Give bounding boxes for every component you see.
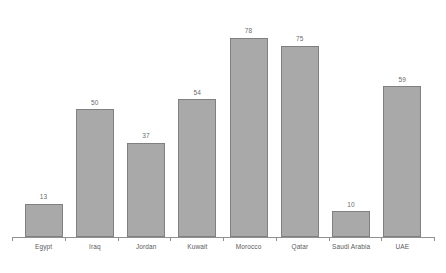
bar-group-saudi-arabia: 10 <box>326 8 377 237</box>
bar-saudi-arabia <box>332 211 370 237</box>
bar-value-label: 10 <box>347 202 355 209</box>
x-label-uae: UAE <box>377 243 428 250</box>
bar-value-label: 59 <box>399 77 407 84</box>
x-axis-tick <box>65 237 66 241</box>
bar-value-label: 37 <box>142 133 150 140</box>
x-axis-tick <box>223 237 224 241</box>
bar-qatar <box>281 46 319 237</box>
x-axis-tick <box>434 237 435 241</box>
x-label-kuwait: Kuwait <box>172 243 223 250</box>
x-axis-labels: Egypt Iraq Jordan Kuwait Morocco Qatar S… <box>18 243 428 250</box>
bar-egypt <box>25 204 63 237</box>
bar-value-label: 50 <box>91 100 99 107</box>
bar-iraq <box>76 109 114 237</box>
x-label-egypt: Egypt <box>18 243 69 250</box>
bar-series: 13 50 37 54 78 75 <box>18 8 428 237</box>
bar-jordan <box>127 143 165 237</box>
bar-uae <box>383 86 421 237</box>
bar-group-qatar: 75 <box>274 8 325 237</box>
x-label-morocco: Morocco <box>223 243 274 250</box>
bar-group-morocco: 78 <box>223 8 274 237</box>
bar-group-iraq: 50 <box>69 8 120 237</box>
bar-group-jordan: 37 <box>121 8 172 237</box>
bar-group-egypt: 13 <box>18 8 69 237</box>
x-axis-tick <box>329 237 330 241</box>
bar-group-kuwait: 54 <box>172 8 223 237</box>
bar-chart: 13 50 37 54 78 75 <box>0 0 446 273</box>
plot-area: 13 50 37 54 78 75 <box>18 8 428 237</box>
x-axis-tick <box>170 237 171 241</box>
x-label-saudi-arabia: Saudi Arabia <box>326 243 377 250</box>
x-axis-tick <box>12 237 13 241</box>
x-label-jordan: Jordan <box>121 243 172 250</box>
bar-morocco <box>230 38 268 237</box>
x-label-iraq: Iraq <box>69 243 120 250</box>
bar-group-uae: 59 <box>377 8 428 237</box>
x-label-qatar: Qatar <box>274 243 325 250</box>
bar-value-label: 78 <box>245 28 253 35</box>
bar-kuwait <box>178 99 216 237</box>
bar-value-label: 13 <box>40 194 48 201</box>
x-axis-tick <box>381 237 382 241</box>
x-axis-tick <box>276 237 277 241</box>
bar-value-label: 75 <box>296 36 304 43</box>
bar-value-label: 54 <box>194 90 202 97</box>
x-axis-tick <box>118 237 119 241</box>
